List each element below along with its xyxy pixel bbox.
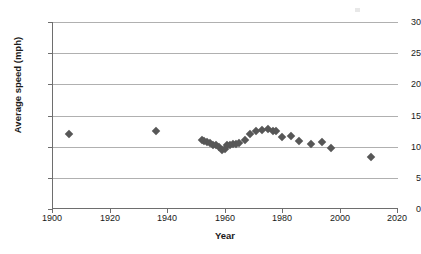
gridline [52, 116, 398, 117]
gridline [52, 22, 398, 23]
y-tick-label: 10 [375, 143, 421, 152]
x-tick-label: 2020 [377, 213, 417, 223]
y-tick-label: 15 [375, 112, 421, 121]
x-tick-label: 1940 [147, 213, 187, 223]
x-tick-label: 2000 [320, 213, 360, 223]
y-tick-label: 20 [375, 80, 421, 89]
y-tick-label: 25 [375, 49, 421, 58]
scatter-chart: 051015202530 190019201940196019802000202… [0, 0, 421, 254]
x-axis-line [52, 208, 398, 209]
x-tick-label: 1980 [262, 213, 302, 223]
y-tick-label: 5 [375, 174, 421, 183]
y-axis-title: Average speed (mph) [13, 15, 23, 155]
x-tick-label: 1900 [32, 213, 72, 223]
x-tick-label: 1960 [205, 213, 245, 223]
y-tick-label: 30 [375, 18, 421, 27]
y-axis-line [52, 22, 53, 209]
x-tick-label: 1920 [90, 213, 130, 223]
x-axis-title: Year [52, 230, 398, 241]
scan-artifact [355, 8, 360, 12]
gridline [52, 53, 398, 54]
gridline [52, 178, 398, 179]
gridline [52, 84, 398, 85]
